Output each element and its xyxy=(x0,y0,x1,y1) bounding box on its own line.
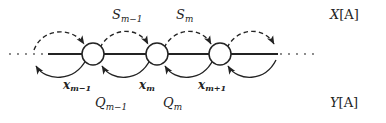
label-q-m-minus-1-sub: m−1 xyxy=(106,102,127,112)
label-x-bracket-a-bracket: [A] xyxy=(339,7,359,22)
label-x-m: xm xyxy=(139,78,155,93)
arc-forward-partial-left xyxy=(34,32,84,50)
node-x-m-plus-1[interactable] xyxy=(209,43,231,65)
label-s-m-minus-1-base: S xyxy=(112,7,121,22)
label-x-m-sub: m xyxy=(146,83,155,93)
label-x-m-plus-1: xm+1 xyxy=(198,78,226,93)
label-s-m-minus-1: Sm−1 xyxy=(112,7,142,24)
arc-backward-partial-left xyxy=(36,60,86,77)
arc-backward-q-m xyxy=(165,60,213,77)
label-y-bracket-a-base: Y xyxy=(330,95,339,110)
label-x-m-minus-1-sub: m−1 xyxy=(70,83,91,93)
label-x-m-minus-1: xm−1 xyxy=(63,78,91,93)
label-s-m: Sm xyxy=(176,7,193,24)
label-s-m-sub: m xyxy=(185,14,193,24)
arc-forward-s-m-minus-1 xyxy=(100,31,148,48)
figure-root: Sm−1 Sm xm−1 xm xm+1 Qm−1 Qm X[A] Y[A] xyxy=(0,0,386,123)
label-x-bracket-a-base: X xyxy=(330,7,339,22)
arc-backward-q-m-minus-1 xyxy=(102,60,150,77)
arc-forward-partial-right xyxy=(227,31,274,48)
ellipsis-left xyxy=(9,53,43,55)
node-x-m[interactable] xyxy=(146,43,168,65)
label-q-m: Qm xyxy=(163,95,182,112)
arc-forward-s-m xyxy=(164,31,211,48)
label-s-m-minus-1-sub: m−1 xyxy=(121,14,142,24)
label-q-m-minus-1-base: Q xyxy=(95,95,106,110)
label-q-m-base: Q xyxy=(163,95,174,110)
ellipsis-right xyxy=(280,53,314,55)
label-y-bracket-a: Y[A] xyxy=(330,95,358,110)
chain-nodes xyxy=(82,43,231,65)
label-x-m-plus-1-sub: m+1 xyxy=(205,83,226,93)
label-y-bracket-a-bracket: [A] xyxy=(339,95,359,110)
node-x-m-minus-1[interactable] xyxy=(82,43,104,65)
label-q-m-sub: m xyxy=(174,102,182,112)
label-x-bracket-a: X[A] xyxy=(330,7,359,22)
label-q-m-minus-1: Qm−1 xyxy=(95,95,127,112)
arc-backward-partial-right xyxy=(228,60,276,77)
label-s-m-base: S xyxy=(176,7,185,22)
